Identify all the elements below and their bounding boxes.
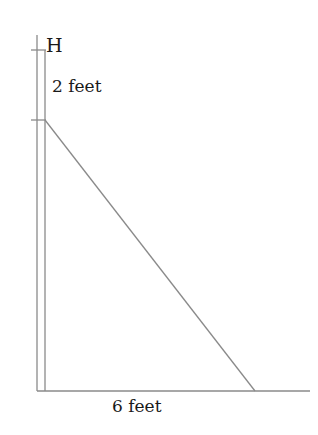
triangle-diagram [0,0,318,435]
vertical-length-label: 2 feet [52,76,101,96]
base-length-label: 6 feet [112,396,161,416]
point-label-h: H [46,34,63,56]
hypotenuse-line [45,120,255,391]
